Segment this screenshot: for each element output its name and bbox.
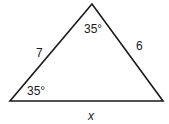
left-side-label: 7 bbox=[36, 46, 43, 60]
bottom-left-angle-label: 35° bbox=[27, 84, 45, 98]
base-label: x bbox=[87, 109, 95, 123]
apex-angle-label: 35° bbox=[84, 22, 102, 36]
triangle-diagram: 35° 35° 7 6 x bbox=[0, 0, 169, 124]
right-side-label: 6 bbox=[136, 39, 143, 53]
